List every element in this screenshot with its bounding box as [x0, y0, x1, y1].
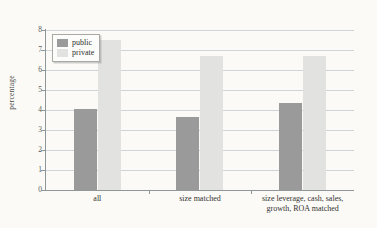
y-tick-mark [41, 150, 46, 151]
legend-item-public: public [57, 38, 94, 48]
bar-private-3 [303, 56, 326, 190]
bar-public-3 [279, 103, 302, 190]
y-tick-mark [41, 130, 46, 131]
bar-private-2 [200, 56, 223, 190]
y-tick-label: 7 [20, 46, 42, 54]
private-swatch-icon [57, 49, 68, 57]
y-tick-mark [41, 30, 46, 31]
y-tick-label: 6 [20, 66, 42, 74]
y-tick-label: 5 [20, 86, 42, 94]
y-tick-mark [41, 50, 46, 51]
y-tick-label: 8 [20, 26, 42, 34]
legend-label-private: private [72, 49, 94, 57]
x-category-label-3: size leverage, cash, sales,growth, ROA m… [239, 194, 366, 214]
y-tick-label: 3 [20, 126, 42, 134]
y-axis-title: percentage [7, 63, 16, 123]
bar-public-2 [176, 117, 199, 190]
y-tick-label: 1 [20, 166, 42, 174]
legend-label-public: public [72, 39, 92, 47]
y-tick-mark [41, 90, 46, 91]
bar-private-1 [98, 40, 121, 190]
bar-group [251, 30, 354, 190]
figure-panel: 012345678 percentage public private alls… [0, 0, 377, 228]
legend: public private [52, 34, 100, 62]
x-axis-line [45, 190, 354, 191]
public-swatch-icon [57, 39, 68, 47]
bar-group [149, 30, 252, 190]
y-tick-label: 0 [20, 186, 42, 194]
y-tick-mark [41, 170, 46, 171]
y-tick-mark [41, 70, 46, 71]
legend-item-private: private [57, 48, 94, 58]
y-tick-label: 4 [20, 106, 42, 114]
y-tick-label: 2 [20, 146, 42, 154]
y-tick-mark [41, 190, 46, 191]
bar-public-1 [74, 109, 97, 190]
y-tick-mark [41, 110, 46, 111]
